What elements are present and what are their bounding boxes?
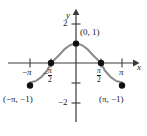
max-point-label: (0, 1)	[80, 28, 100, 37]
y-tick-label-2: 2	[63, 19, 68, 28]
left-min-point-label: (−π, −1)	[3, 95, 33, 104]
cosine-graph-figure: y x 2 −2 −π −π2 π2 π (0, 1) (−π, −1) (π,…	[0, 0, 147, 136]
x-tick-label-pi-over-2: π2	[97, 66, 101, 83]
y-axis	[73, 9, 80, 122]
point-right-min	[119, 82, 125, 88]
right-min-point-label: (π, −1)	[99, 95, 124, 104]
pi-glyph: π	[27, 67, 32, 77]
x-axis	[8, 60, 140, 67]
point-left-min	[27, 82, 33, 88]
fraction: π2	[48, 67, 52, 84]
x-tick-label-pi: π	[119, 68, 124, 77]
fraction-denominator: 2	[97, 75, 101, 84]
fraction-numerator: π	[48, 67, 52, 75]
y-tick-label-minus-2: −2	[58, 98, 68, 107]
x-axis-label: x	[137, 63, 141, 72]
x-tick-label-minus-pi: −π	[22, 68, 32, 77]
x-tick-label-minus-pi-over-2: −π2	[43, 66, 52, 83]
fraction: π2	[97, 67, 101, 84]
fraction-denominator: 2	[48, 75, 52, 84]
point-max	[73, 40, 79, 46]
fraction-numerator: π	[97, 67, 101, 75]
